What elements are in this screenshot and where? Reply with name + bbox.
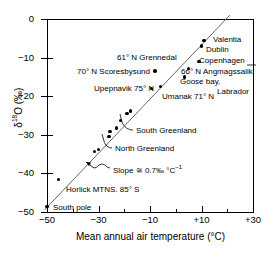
annotation-angmagssalik: 66° N Angmagssalik — [181, 67, 253, 76]
annotation-south-greenland: South Greenland — [136, 126, 197, 135]
y-axis-title-delta: δ — [13, 122, 24, 128]
annotation-scoresbysund: 70° N Scoresbysund — [77, 67, 150, 76]
annotation-north-greenland: North Greenland — [115, 144, 174, 153]
annotation-labrador: Labrador — [217, 87, 249, 96]
slope-exponent: −1 — [175, 164, 182, 170]
annotation-dublin: Dublin — [206, 45, 229, 54]
annotation-upepnavik: Upepnavik 75° N — [94, 84, 154, 93]
annotation-slope: Slope ≅ 0.7‰ °C−1 — [113, 163, 182, 175]
y-axis-title: δ18O (‰) — [9, 63, 24, 153]
slope-text: Slope ≅ 0.7‰ °C — [113, 166, 175, 175]
annotation-horlick: Horlick MTNS. 85° S — [66, 185, 139, 194]
annotation-copenhagen: Copenhagen — [199, 56, 245, 65]
annotation-south-pole: South pole — [53, 203, 91, 212]
annotation-grennedal: 61° N Grennedal — [117, 53, 177, 62]
y-axis-title-rest: O (‰) — [13, 88, 24, 115]
annotation-valentia: Valentia — [213, 35, 241, 44]
annotation-umanak: Umanak 71° N — [162, 92, 214, 101]
x-axis-title: Mean annual air temperature (°C) — [47, 231, 254, 243]
oxygen-isotope-scatter-figure: 0−10−20−30−40−50−50−30−10+10+30 61° N Gr… — [0, 0, 269, 257]
annotation-goose-bay: Goose bay, — [180, 77, 220, 86]
y-axis-title-superscript: 18 — [11, 115, 18, 122]
